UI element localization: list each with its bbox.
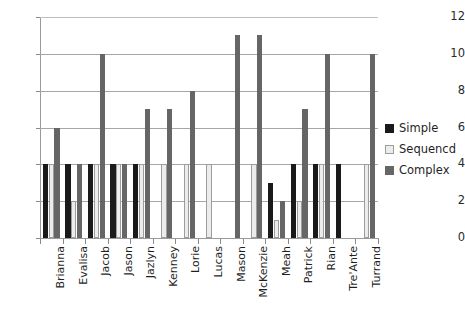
bar	[268, 183, 273, 238]
bar-group	[40, 17, 63, 238]
bar	[302, 109, 307, 238]
bar	[145, 109, 150, 238]
bar	[65, 164, 70, 238]
x-category-label: McKenzie	[258, 246, 269, 298]
x-tick-mark	[175, 239, 176, 244]
x-category-label: Jason	[123, 246, 134, 275]
bar	[110, 164, 115, 238]
bar-group	[310, 17, 333, 238]
bar	[370, 54, 375, 238]
y-tick-label: 10	[435, 48, 465, 60]
bar-group	[220, 17, 243, 238]
x-category-label: Jazlyn	[145, 246, 156, 278]
bar	[190, 91, 195, 238]
x-tick-mark	[288, 239, 289, 244]
x-tick-mark	[198, 239, 199, 244]
legend-swatch-sequencd-icon	[385, 145, 394, 154]
bar	[49, 164, 54, 238]
bar-group	[108, 17, 131, 238]
x-category-label: Evalisa	[78, 246, 89, 285]
y-tick-label: 12	[435, 11, 465, 23]
bar-group	[153, 17, 176, 238]
bar	[313, 164, 318, 238]
x-category-label: Tre'Ante	[348, 246, 359, 291]
bar-group	[243, 17, 266, 238]
bar-group	[288, 17, 311, 238]
bar	[251, 164, 256, 238]
bar	[139, 164, 144, 238]
legend-label-complex: Complex	[399, 165, 449, 177]
bar-group	[85, 17, 108, 238]
bar-group	[265, 17, 288, 238]
legend-item-simple[interactable]: Simple	[385, 118, 456, 139]
x-tick-mark	[63, 239, 64, 244]
bar	[280, 201, 285, 238]
bar	[167, 109, 172, 238]
legend-item-sequencd[interactable]: Sequencd	[385, 139, 456, 160]
bar	[184, 164, 189, 238]
bar	[122, 164, 127, 238]
x-category-label: Lorie	[190, 246, 201, 273]
bar-chart: 024681012 BriannaEvalisaJacobJasonJazlyn…	[0, 0, 465, 312]
y-tick-label: 2	[435, 195, 465, 207]
x-tick-mark	[108, 239, 109, 244]
bar-group	[198, 17, 221, 238]
legend-swatch-complex-icon	[385, 166, 394, 175]
bar-group	[130, 17, 153, 238]
x-tick-mark	[333, 239, 334, 244]
bar	[235, 35, 240, 238]
x-category-label: Turrand	[371, 246, 382, 288]
x-tick-mark	[153, 239, 154, 244]
bar-group	[333, 17, 356, 238]
bar	[43, 164, 48, 238]
bar	[336, 164, 341, 238]
bar	[161, 164, 166, 238]
x-category-label: Lucas	[213, 246, 224, 277]
x-category-label: Meah	[281, 246, 292, 276]
x-tick-mark	[85, 239, 86, 244]
bar	[297, 201, 302, 238]
bar	[274, 220, 279, 238]
x-tick-mark	[355, 239, 356, 244]
x-category-label: Kenney	[168, 246, 179, 287]
x-category-label: Brianna	[55, 246, 66, 289]
x-tick-mark	[220, 239, 221, 244]
y-tick-label: 0	[435, 232, 465, 244]
bar	[100, 54, 105, 238]
x-category-label: Mason	[236, 246, 247, 282]
x-axis-line	[40, 238, 379, 239]
plot-area	[40, 17, 378, 238]
bar-group	[175, 17, 198, 238]
bar	[54, 128, 59, 239]
bar	[71, 201, 76, 238]
x-category-label: Patrick	[303, 246, 314, 283]
bar	[206, 164, 211, 238]
x-category-label: Rian	[326, 246, 337, 270]
x-tick-mark	[40, 239, 41, 244]
bar	[364, 164, 369, 238]
y-tick-label: 8	[435, 85, 465, 97]
legend-label-simple: Simple	[399, 123, 438, 135]
x-tick-mark	[130, 239, 131, 244]
bar	[77, 164, 82, 238]
bar	[257, 35, 262, 238]
bar-group	[63, 17, 86, 238]
legend-label-sequencd: Sequencd	[399, 144, 456, 156]
legend-item-complex[interactable]: Complex	[385, 160, 456, 181]
x-tick-mark	[243, 239, 244, 244]
bar	[325, 54, 330, 238]
bar	[291, 164, 296, 238]
bar	[133, 164, 138, 238]
bar	[88, 164, 93, 238]
bar-group	[355, 17, 378, 238]
bar	[116, 164, 121, 238]
x-tick-mark	[378, 239, 379, 244]
bar	[94, 164, 99, 238]
bar	[319, 164, 324, 238]
x-category-label: Jacob	[100, 246, 111, 276]
x-tick-mark	[265, 239, 266, 244]
chart-legend: Simple Sequencd Complex	[385, 118, 456, 181]
x-tick-mark	[310, 239, 311, 244]
legend-swatch-simple-icon	[385, 124, 394, 133]
